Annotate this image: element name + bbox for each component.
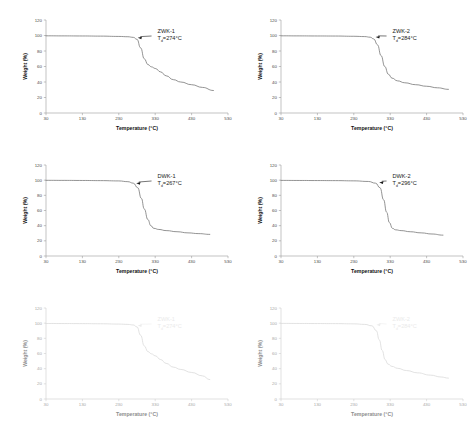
x-tick-label: 530 xyxy=(459,259,467,264)
sample-label: ZWK-1 xyxy=(158,316,175,322)
x-tick-label: 330 xyxy=(152,259,160,264)
y-tick-label: 120 xyxy=(270,163,278,168)
x-tick-label: 30 xyxy=(44,402,49,407)
x-tick-label: 430 xyxy=(423,116,431,121)
x-tick-label: 330 xyxy=(387,116,395,121)
chart-panel-zwk-1: 02040608010012030130230330430530Temperat… xyxy=(0,0,235,145)
y-tick-label: 0 xyxy=(40,397,43,402)
x-axis-title: Temperature (°C) xyxy=(116,268,158,274)
y-tick-label: 0 xyxy=(275,254,278,259)
tga-curve xyxy=(46,180,210,234)
axes: 02040608010012030130230330430530 xyxy=(270,163,468,265)
x-tick-label: 30 xyxy=(44,116,49,121)
x-tick-label: 230 xyxy=(350,116,358,121)
x-tick-label: 130 xyxy=(79,259,87,264)
axes: 02040608010012030130230330430530 xyxy=(270,18,468,122)
annotation-arrow-icon xyxy=(379,181,383,184)
x-tick-label: 430 xyxy=(188,402,196,407)
y-tick-label: 40 xyxy=(37,80,42,85)
y-tick-label: 100 xyxy=(270,33,278,38)
chart-panel-dwk-2: 02040608010012030130230330430530Temperat… xyxy=(235,145,470,288)
y-tick-label: 0 xyxy=(275,397,278,402)
tga-curve xyxy=(281,180,443,235)
x-tick-label: 130 xyxy=(314,116,322,121)
y-tick-label: 0 xyxy=(275,111,278,116)
x-tick-label: 130 xyxy=(314,259,322,264)
y-tick-label: 80 xyxy=(272,336,277,341)
x-tick-label: 30 xyxy=(44,259,49,264)
x-axis-title: Temperature (°C) xyxy=(116,411,158,417)
y-tick-label: 60 xyxy=(37,208,42,213)
x-tick-label: 330 xyxy=(152,116,160,121)
y-tick-label: 40 xyxy=(272,366,277,371)
y-tick-label: 100 xyxy=(35,33,43,38)
td-label: Td=274°C xyxy=(158,35,182,43)
y-tick-label: 100 xyxy=(35,321,43,326)
y-tick-label: 120 xyxy=(270,306,278,311)
y-tick-label: 40 xyxy=(272,223,277,228)
y-tick-label: 40 xyxy=(272,80,277,85)
y-tick-label: 80 xyxy=(37,193,42,198)
y-tick-label: 20 xyxy=(37,238,42,243)
x-tick-label: 330 xyxy=(387,259,395,264)
x-tick-label: 230 xyxy=(115,259,123,264)
y-tick-label: 100 xyxy=(270,321,278,326)
y-tick-label: 120 xyxy=(270,18,278,23)
y-tick-label: 20 xyxy=(37,381,42,386)
x-tick-label: 330 xyxy=(152,402,160,407)
y-tick-label: 60 xyxy=(37,351,42,356)
x-axis-title: Temperature (°C) xyxy=(116,125,158,131)
y-axis-title: Weight (%) xyxy=(257,340,263,367)
y-tick-label: 100 xyxy=(35,178,43,183)
chart-panel-zwk-1-faded: 02040608010012030130230330430530Temperat… xyxy=(0,288,235,431)
tga-curve xyxy=(281,36,448,90)
x-tick-label: 530 xyxy=(459,116,467,121)
axes: 02040608010012030130230330430530 xyxy=(35,163,233,265)
x-tick-label: 230 xyxy=(115,116,123,121)
x-axis-title: Temperature (°C) xyxy=(351,268,393,274)
tga-curve xyxy=(46,36,213,91)
annotation-leader-line xyxy=(140,36,151,37)
y-tick-label: 80 xyxy=(272,193,277,198)
y-axis-title: Weight (%) xyxy=(257,53,263,80)
y-axis-title: Weight (%) xyxy=(257,197,263,224)
tga-figure-grid: 02040608010012030130230330430530Temperat… xyxy=(0,0,470,431)
td-label: Td=267°C xyxy=(158,180,182,188)
y-tick-label: 80 xyxy=(272,49,277,54)
x-tick-label: 530 xyxy=(459,402,467,407)
y-tick-label: 20 xyxy=(272,381,277,386)
tga-chart-svg: 02040608010012030130230330430530Temperat… xyxy=(235,288,470,431)
sample-label: DWK-2 xyxy=(393,173,411,179)
x-tick-label: 530 xyxy=(224,116,232,121)
x-tick-label: 230 xyxy=(115,402,123,407)
y-tick-label: 20 xyxy=(272,95,277,100)
x-tick-label: 430 xyxy=(423,402,431,407)
x-axis-title: Temperature (°C) xyxy=(351,411,393,417)
x-tick-label: 130 xyxy=(79,116,87,121)
x-tick-label: 430 xyxy=(188,259,196,264)
y-tick-label: 120 xyxy=(35,163,43,168)
y-tick-label: 60 xyxy=(272,64,277,69)
chart-panel-zwk-2-faded: 02040608010012030130230330430530Temperat… xyxy=(235,288,470,431)
tga-curve xyxy=(281,323,448,378)
x-tick-label: 230 xyxy=(350,402,358,407)
y-axis-title: Weight (%) xyxy=(22,53,28,80)
y-tick-label: 80 xyxy=(37,336,42,341)
annotation-arrow-icon xyxy=(138,324,142,327)
sample-label: ZWK-2 xyxy=(393,28,410,34)
y-axis-title: Weight (%) xyxy=(22,340,28,367)
tga-chart-svg: 02040608010012030130230330430530Temperat… xyxy=(0,145,235,288)
chart-panel-zwk-2: 02040608010012030130230330430530Temperat… xyxy=(235,0,470,145)
x-tick-label: 30 xyxy=(279,259,284,264)
y-tick-label: 100 xyxy=(270,178,278,183)
x-tick-label: 530 xyxy=(224,402,232,407)
y-tick-label: 20 xyxy=(37,95,42,100)
tga-chart-svg: 02040608010012030130230330430530Temperat… xyxy=(0,288,235,431)
axes: 02040608010012030130230330430530 xyxy=(35,306,233,408)
chart-panel-dwk-1: 02040608010012030130230330430530Temperat… xyxy=(0,145,235,288)
sample-label: ZWK-1 xyxy=(158,28,175,34)
td-label: Td=284°C xyxy=(393,323,417,331)
td-label: Td=274°C xyxy=(158,323,182,331)
x-tick-label: 30 xyxy=(279,402,284,407)
annotation-arrow-icon xyxy=(136,182,140,185)
